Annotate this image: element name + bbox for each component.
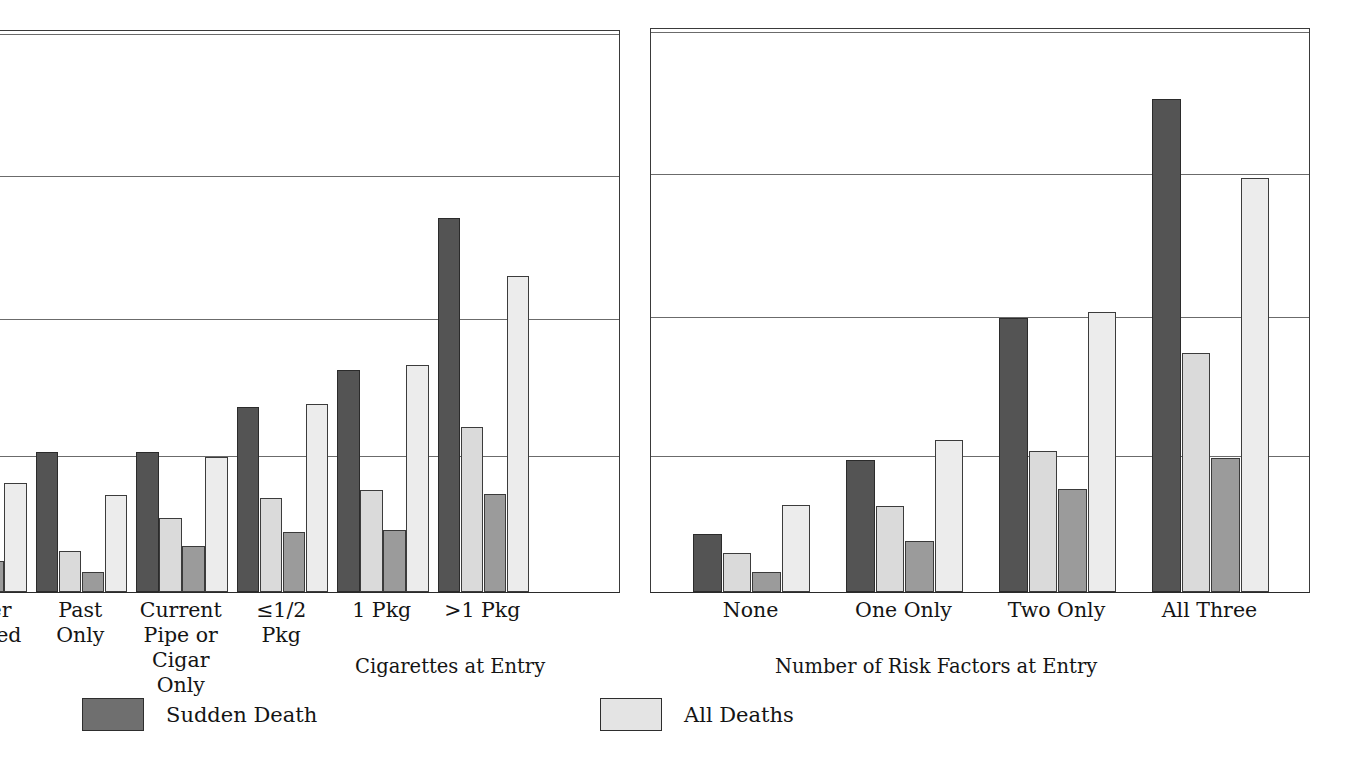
bar [360,490,383,592]
legend-swatch-icon [82,698,144,731]
cigarettes-panel: Never SmokedPast OnlyCurrent Pipe or Cig… [0,0,620,690]
x-tick-label: Two Only [982,598,1132,623]
bar [752,572,781,592]
bar [1211,458,1240,592]
legend-swatch-icon [600,698,662,731]
bar [438,218,461,592]
bar [36,452,59,592]
bar [306,404,329,592]
bar [105,495,128,592]
legend: Sudden Death All Deaths [0,690,1355,750]
x-axis-title-cigarettes: Cigarettes at Entry [355,655,545,678]
x-axis-title-risk-factors: Number of Risk Factors at Entry [775,655,1097,678]
x-tick-label: ≤1/2 Pkg [226,598,336,648]
x-tick-label: Current Pipe or Cigar Only [126,598,236,698]
bar [1029,451,1058,592]
legend-label: Sudden Death [166,703,317,727]
x-tick-label: 1 Pkg [327,598,437,623]
legend-item-sudden-death: Sudden Death [82,698,317,731]
bar [693,534,722,592]
bar [1088,312,1117,592]
bar [237,407,260,592]
bar [4,483,27,592]
bar [876,506,905,592]
bar [283,532,306,592]
gridline [651,317,1309,318]
x-tick-label: >1 Pkg [427,598,537,623]
bar [0,561,4,592]
bar [1241,178,1270,592]
bar [905,541,934,592]
gridline [651,456,1309,457]
bar [461,427,484,592]
bar [406,365,429,592]
bar [846,460,875,592]
bar [337,370,360,592]
bar [182,546,205,592]
legend-item-all-deaths: All Deaths [600,698,794,731]
bar [82,572,105,592]
x-tick-label: None [676,598,826,623]
x-tick-label: Past Only [25,598,135,648]
bar [723,553,752,592]
plot-area-cigarettes [0,30,620,593]
bar [1152,99,1181,592]
bar [999,318,1028,592]
gridline [0,34,619,35]
x-tick-label: All Three [1135,598,1285,623]
bar [935,440,964,592]
bar [59,551,82,592]
gridline [651,32,1309,33]
risk-factors-panel: NoneOne OnlyTwo OnlyAll Three Number of … [650,0,1315,690]
gridline [0,176,619,177]
bar [782,505,811,592]
bar [136,452,159,592]
bar [159,518,182,592]
legend-label: All Deaths [684,703,794,727]
gridline [651,174,1309,175]
x-tick-label: One Only [829,598,979,623]
bar [484,494,507,592]
bar [260,498,283,592]
bar [1182,353,1211,592]
plot-area-risk-factors [650,28,1310,593]
bar [1058,489,1087,592]
figure-root: Never SmokedPast OnlyCurrent Pipe or Cig… [0,0,1355,765]
bar [507,276,530,592]
bar [205,457,228,592]
bar [383,530,406,592]
